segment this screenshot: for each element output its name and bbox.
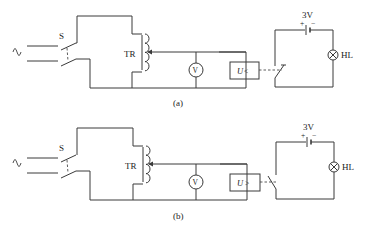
panel-caption: (a)	[173, 98, 183, 108]
circuit-figure: S TR V U < 3V +	[0, 0, 365, 228]
battery-minus: −	[312, 131, 316, 140]
voltmeter-label: V	[193, 66, 199, 75]
battery-plus: +	[300, 19, 304, 28]
switch-label: S	[59, 31, 64, 41]
ac-source-icon	[13, 160, 21, 167]
wire-bottom	[90, 164, 247, 200]
switch-s	[61, 128, 90, 200]
lamp-label: HL	[342, 162, 354, 172]
wire-tr-bottom	[133, 184, 143, 200]
switch-label: S	[59, 143, 64, 153]
relay-label-var: U	[237, 178, 244, 188]
battery-plus: +	[301, 131, 305, 140]
wire-top-to-tr	[77, 128, 143, 146]
lamp-circuit-left	[276, 142, 306, 175]
relay-label-var: U	[237, 66, 244, 76]
lamp-circuit-right	[312, 30, 333, 50]
relay-label-op: <	[244, 67, 248, 76]
transformer-label: TR	[124, 49, 136, 59]
lamp-circuit-right	[313, 142, 334, 162]
transformer-label: TR	[125, 161, 137, 171]
voltmeter-label: V	[193, 178, 199, 187]
battery-minus: −	[311, 19, 315, 28]
panel-a: S TR V U < 3V +	[13, 10, 353, 108]
relay-contact-closed	[275, 65, 284, 78]
wire-tr-bottom	[132, 72, 142, 88]
lamp-hl-icon	[328, 50, 338, 60]
lamp-circuit-left	[275, 30, 305, 66]
panel-caption: (b)	[173, 211, 184, 221]
relay-label-op: >	[245, 179, 249, 188]
ac-source-icon	[13, 49, 21, 56]
wire-bottom	[90, 52, 246, 88]
lamp-circuit-bottom	[276, 172, 334, 199]
lamp-hl-icon	[329, 162, 339, 172]
wire-top-to-tr	[77, 16, 142, 34]
lamp-circuit-bottom	[275, 60, 333, 87]
relay-contact-open	[268, 176, 276, 189]
panel-b: S TR V U > 3V + − HL (b)	[13, 122, 354, 221]
lamp-label: HL	[341, 50, 353, 60]
switch-s	[61, 16, 90, 88]
